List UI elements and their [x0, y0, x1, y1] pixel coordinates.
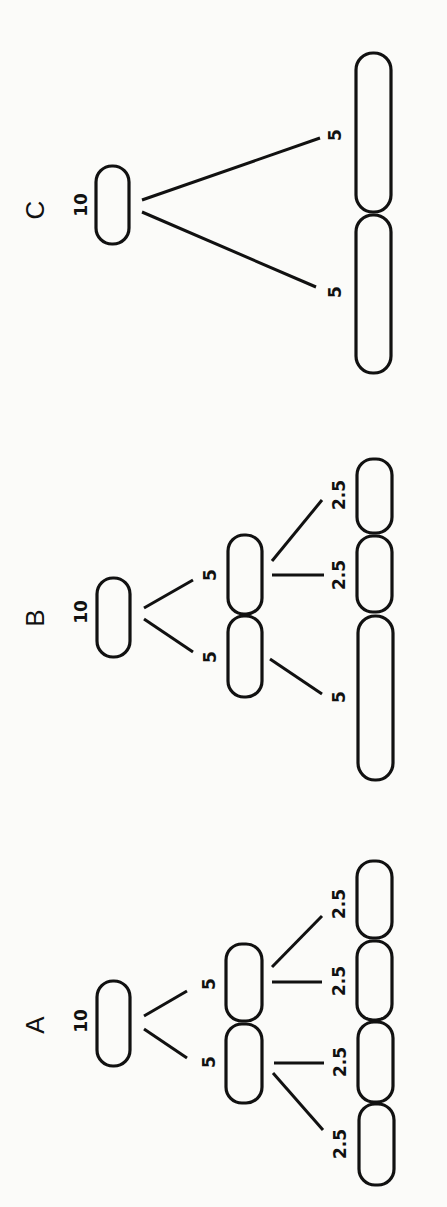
panel-b: B 10 5 5 2.5 2.5 5 [20, 459, 393, 780]
division-line [144, 580, 193, 608]
panel-label-c: C [20, 201, 50, 220]
granddaughter-cell [359, 1104, 394, 1185]
granddaughter-cell [358, 616, 393, 780]
panel-label-a: A [20, 1016, 50, 1034]
granddaughter-cell [357, 459, 392, 533]
granddaughter-value-label: 2.5 [329, 480, 349, 510]
granddaughter-value-label: 2.5 [329, 966, 349, 996]
root-value-label: 10 [71, 600, 91, 624]
division-line [144, 991, 187, 1016]
granddaughter-cell [357, 941, 392, 1020]
division-line [273, 1073, 323, 1130]
granddaughter-value-label: 2.5 [329, 560, 349, 590]
division-line [142, 212, 316, 287]
daughter-value-label: 5 [199, 978, 219, 990]
division-line [142, 138, 320, 200]
root-cell [96, 166, 129, 244]
daughter-cell [228, 535, 262, 614]
granddaughter-cell [357, 536, 392, 612]
root-cell [97, 981, 130, 1066]
daughter-cell [226, 944, 262, 1021]
root-cell [97, 578, 130, 657]
daughter-value-label: 5 [200, 569, 220, 581]
daughter-value-label: 5 [200, 651, 220, 663]
granddaughter-value-label: 2.5 [330, 1129, 350, 1159]
daughter-value-label: 5 [325, 129, 345, 141]
daughter-cell [228, 616, 262, 697]
division-line [144, 1029, 187, 1058]
granddaughter-value-label: 5 [329, 691, 349, 703]
daughter-cell [356, 215, 391, 373]
cell-division-figure: C 10 5 5 B 10 5 5 2.5 2.5 5 A 10 [0, 0, 447, 1207]
panel-label-b: B [20, 609, 50, 626]
daughter-cell [226, 1024, 262, 1103]
granddaughter-value-label: 2.5 [330, 1047, 350, 1077]
daughter-cell [356, 53, 391, 212]
root-value-label: 10 [71, 193, 91, 217]
granddaughter-value-label: 2.5 [329, 889, 349, 919]
panel-a: A 10 5 5 2.5 2.5 2.5 2.5 [20, 861, 394, 1185]
root-value-label: 10 [71, 1009, 91, 1033]
division-line [270, 659, 322, 694]
division-line [272, 500, 322, 561]
daughter-value-label: 5 [199, 1056, 219, 1068]
granddaughter-cell [358, 1022, 393, 1102]
daughter-value-label: 5 [325, 286, 345, 298]
division-line [272, 916, 322, 967]
panel-c: C 10 5 5 [20, 53, 391, 373]
division-line [144, 619, 193, 652]
granddaughter-cell [357, 861, 392, 938]
